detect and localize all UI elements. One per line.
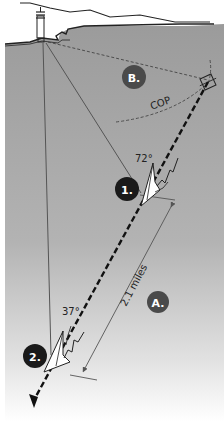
angle-1-label: 72° [135,153,153,164]
svg-text:B.: B. [128,72,141,85]
svg-text:2.: 2. [29,351,41,364]
svg-text:A.: A. [152,297,165,310]
badge-position-2: 2. [23,344,47,368]
svg-text:1.: 1. [121,184,133,197]
navigation-diagram: COP 2.1 miles 72° [0,0,224,421]
badge-b: B. [122,65,146,89]
badge-a: A. [147,291,169,313]
angle-2-label: 37° [62,306,80,317]
lighthouse-icon [36,7,45,42]
badge-position-1: 1. [115,177,139,201]
